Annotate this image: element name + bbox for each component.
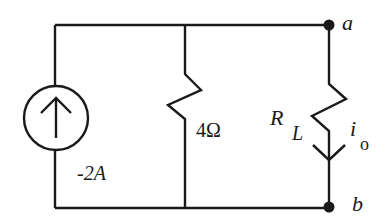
shunt-resistor-label: 4Ω (196, 120, 221, 140)
load-resistor-label: R (270, 107, 283, 129)
terminal-b-dot (324, 202, 335, 213)
load-resistor-subscript: L (292, 123, 303, 143)
current-source-label: -2A (77, 163, 106, 183)
terminal-a-dot (324, 20, 335, 31)
current-source-arrow-icon (41, 98, 71, 138)
circuit-diagram (0, 0, 387, 224)
terminal-b-label: b (352, 193, 363, 215)
load-current-subscript: o (360, 135, 369, 153)
load-resistor-icon (312, 25, 346, 208)
terminal-a-label: a (342, 12, 353, 34)
load-current-label: i (350, 118, 356, 140)
shunt-resistor-icon (168, 25, 201, 208)
